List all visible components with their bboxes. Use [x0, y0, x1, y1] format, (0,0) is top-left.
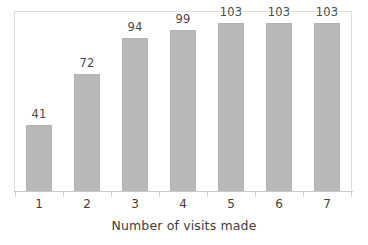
bar[interactable]	[26, 125, 52, 192]
x-axis-label: 3	[111, 197, 159, 211]
bar-value-label: 94	[127, 20, 142, 34]
bar-value-label: 103	[316, 5, 339, 19]
x-axis-tick	[303, 192, 304, 197]
plot-area: 41729499103103103	[15, 12, 351, 192]
x-axis-tick-labels: 1234567	[15, 197, 351, 217]
bar[interactable]	[266, 23, 292, 192]
bar-group: 41	[15, 12, 63, 192]
bar-value-label: 99	[175, 12, 190, 26]
bar-group: 103	[207, 12, 255, 192]
x-axis-tick	[63, 192, 64, 197]
bar-value-label: 103	[268, 5, 291, 19]
x-axis-label: 4	[159, 197, 207, 211]
bar-value-label: 72	[79, 56, 94, 70]
bar-group: 103	[255, 12, 303, 192]
bar[interactable]	[218, 23, 244, 192]
bar-value-label: 103	[220, 5, 243, 19]
x-axis-label: 6	[255, 197, 303, 211]
x-axis-tick	[15, 192, 16, 197]
x-axis-title: Number of visits made	[0, 218, 368, 233]
x-axis-label: 2	[63, 197, 111, 211]
x-axis-label: 1	[15, 197, 63, 211]
x-axis-tick	[111, 192, 112, 197]
x-axis-tick	[351, 192, 352, 197]
x-axis-label: 7	[303, 197, 351, 211]
bar-value-label: 41	[31, 107, 46, 121]
x-axis-tick	[207, 192, 208, 197]
bar[interactable]	[122, 38, 148, 192]
x-axis-tick	[159, 192, 160, 197]
bar-group: 94	[111, 12, 159, 192]
bar[interactable]	[170, 30, 196, 192]
x-axis-tick	[255, 192, 256, 197]
bar-group: 72	[63, 12, 111, 192]
x-axis-label: 5	[207, 197, 255, 211]
bar[interactable]	[74, 74, 100, 192]
bar[interactable]	[314, 23, 340, 192]
bar-chart: 41729499103103103 1234567 Number of visi…	[0, 0, 368, 245]
bar-group: 99	[159, 12, 207, 192]
bar-group: 103	[303, 12, 351, 192]
